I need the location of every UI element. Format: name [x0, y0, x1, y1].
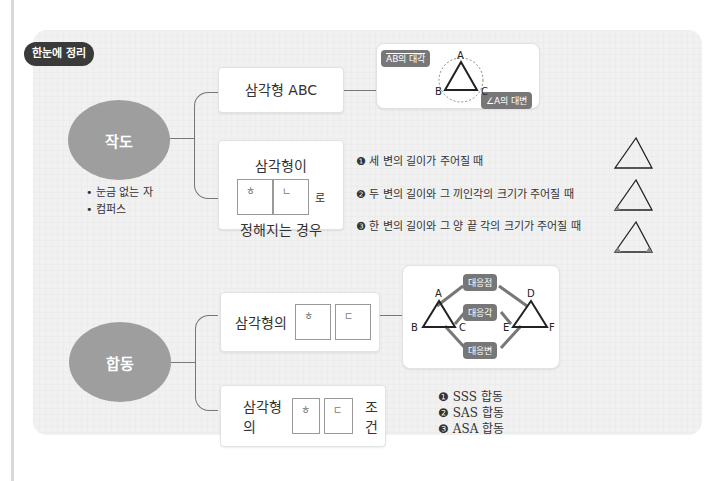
tool-compass: • 컴퍼스	[86, 200, 126, 216]
triangle-abc-label: 삼각형 ABC	[219, 68, 343, 112]
vertex-b: B	[435, 86, 442, 97]
blank-square: ㅎ	[295, 304, 331, 340]
box-line2: 정해지는 경우	[219, 219, 343, 239]
corresponding-point-tag: 대응점	[463, 274, 497, 291]
box-line1: 삼각형이	[219, 155, 343, 175]
triangle-diagram-2: 대응점 대응각 대응변 A B C D E F	[402, 265, 560, 369]
condition-triangles-icon	[610, 135, 660, 255]
condition-3: ❸ 한 변의 길이와 그 양 끝 각의 크기가 주어질 때	[356, 217, 581, 233]
determined-triangle-box: 삼각형이 ㅎㄴ 로 정해지는 경우	[218, 140, 344, 230]
vertex-f: F	[549, 322, 555, 333]
brace-2	[195, 315, 218, 411]
corresponding-angle-tag: 대응각	[463, 304, 497, 321]
condition-2: ❷ 두 변의 길이와 그 끼인각의 크기가 주어질 때	[356, 185, 574, 201]
vertex-c: C	[481, 86, 488, 97]
box-prefix: 삼각형의	[243, 396, 284, 436]
triangle-abc-box: 삼각형 ABC	[218, 67, 344, 113]
opposite-angle-tag: AB의 대각	[381, 50, 430, 67]
sas-condition: ❷ SAS 합동	[438, 403, 504, 420]
blank-square: ㄷ	[335, 304, 371, 340]
vertex-e: E	[503, 322, 509, 333]
congruent-box-2: 삼각형의 ㅎㄷ 조건	[220, 385, 386, 447]
suffix: 로	[315, 192, 325, 205]
sss-condition: ❶ SSS 합동	[438, 387, 503, 404]
opposite-side-tag: ∠A의 대변	[481, 92, 532, 109]
connector	[380, 315, 402, 316]
blank-square: ㄷ	[324, 398, 353, 434]
box-suffix: 조건	[365, 396, 385, 436]
vertex-d: D	[527, 288, 535, 299]
blank-square: ㄴ	[273, 179, 309, 215]
vertex-c: C	[459, 322, 466, 333]
congruence-node: 합동	[69, 322, 171, 402]
connector	[344, 90, 376, 91]
vertex-b: B	[411, 322, 418, 333]
congruent-box-1: 삼각형의 ㅎㄷ	[220, 292, 380, 352]
construction-title: 작도	[105, 130, 133, 151]
connector	[171, 362, 195, 363]
tool-ruler: • 눈금 없는 자	[86, 183, 153, 199]
asa-condition: ❸ ASA 합동	[438, 419, 504, 436]
condition-1: ❶ 세 변의 길이가 주어질 때	[356, 152, 483, 168]
vertex-a: A	[457, 50, 464, 61]
blank-square: ㅎ	[292, 398, 321, 434]
connector	[170, 138, 194, 139]
box-prefix: 삼각형의	[235, 312, 287, 332]
triangle-diagram-1: AB의 대각 ∠A의 대변 A B C	[376, 43, 540, 109]
blank-square: ㅎ	[237, 179, 273, 215]
left-margin-bar	[11, 0, 14, 481]
brace-1	[194, 92, 218, 199]
congruence-title: 합동	[106, 352, 134, 373]
vertex-a: A	[435, 288, 442, 299]
construction-node: 작도	[68, 100, 170, 180]
summary-badge: 한눈에 정리	[24, 42, 94, 66]
corresponding-side-tag: 대응변	[463, 342, 497, 359]
